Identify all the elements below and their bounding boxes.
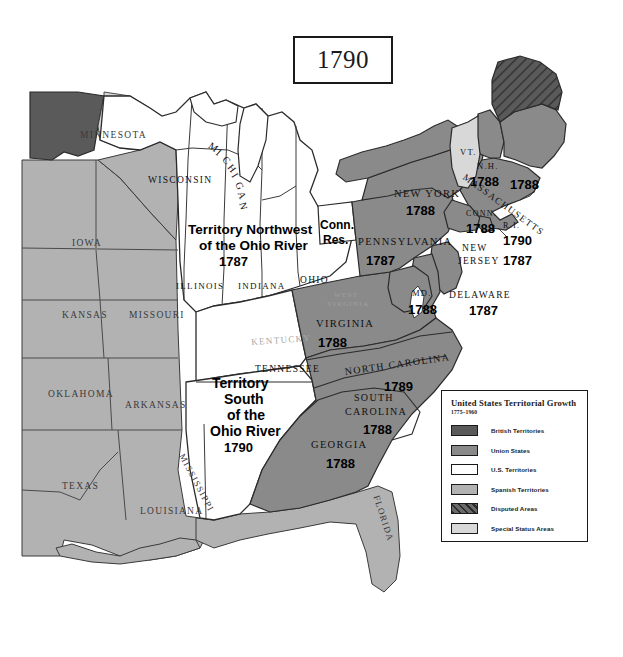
- legend-swatch: [451, 523, 478, 534]
- map-year-title: 1790: [317, 46, 369, 74]
- legend-item-label: Union States: [491, 447, 530, 454]
- historical-map: 1790 United States Territorial Growth 17…: [0, 0, 623, 657]
- legend-swatch: [451, 503, 478, 514]
- legend-item-label: Special Status Areas: [491, 525, 554, 532]
- legend-item: Union States: [451, 441, 579, 461]
- legend-subtitle: 1775–1960: [451, 409, 579, 415]
- region-vermont-special-status: [450, 116, 480, 188]
- legend-swatch: [451, 484, 478, 495]
- legend-swatch: [451, 464, 478, 475]
- region-connecticut-reserve: [318, 202, 356, 244]
- legend-item-label: Disputed Areas: [491, 505, 538, 512]
- legend-title: United States Territorial Growth: [451, 398, 579, 408]
- legend-swatch: [451, 425, 478, 436]
- legend-item: Disputed Areas: [451, 499, 579, 519]
- legend-item-label: U.S. Territories: [491, 466, 537, 473]
- legend-item: Special Status Areas: [451, 519, 579, 539]
- legend-entries: British TerritoriesUnion StatesU.S. Terr…: [451, 421, 579, 538]
- legend-item: U.S. Territories: [451, 460, 579, 480]
- legend-item: British Territories: [451, 421, 579, 441]
- legend-swatch: [451, 445, 478, 456]
- map-canvas: [0, 0, 623, 657]
- map-title-box: 1790: [293, 36, 393, 84]
- map-legend: United States Territorial Growth 1775–19…: [441, 390, 588, 542]
- legend-item-label: Spanish Territories: [491, 486, 549, 493]
- legend-item: Spanish Territories: [451, 480, 579, 500]
- legend-item-label: British Territories: [491, 427, 544, 434]
